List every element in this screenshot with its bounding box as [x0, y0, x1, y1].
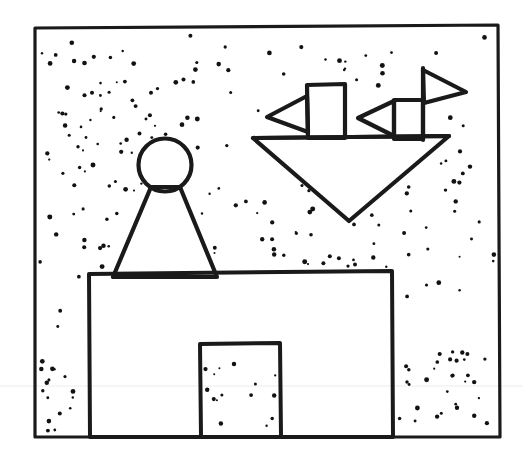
stipple-dot [337, 256, 341, 260]
stipple-dot [453, 210, 456, 213]
stipple-dot [321, 261, 325, 265]
stipple-dot [434, 51, 438, 55]
stipple-dot [272, 393, 276, 397]
stipple-dot [472, 380, 476, 384]
stipple-dot [433, 368, 435, 370]
stipple-dot [100, 110, 102, 112]
stipple-dot [226, 68, 230, 72]
scene-drawing [0, 0, 523, 466]
stipple-dot [414, 420, 417, 423]
stipple-dot [451, 179, 456, 184]
canvas-background [0, 0, 523, 466]
stipple-dot [61, 172, 64, 175]
stipple-dot [455, 406, 459, 410]
stipple-dot [398, 417, 401, 420]
stipple-dot [380, 63, 385, 68]
stipple-dot [444, 188, 447, 191]
stipple-dot [454, 199, 458, 203]
stipple-dot [131, 152, 133, 154]
stipple-dot [69, 407, 72, 410]
stipple-dot [478, 397, 480, 399]
stipple-dot [63, 123, 68, 128]
stipple-dot [131, 61, 136, 66]
stipple-dot [483, 357, 486, 360]
stipple-dot [213, 246, 217, 250]
stipple-dot [63, 375, 66, 378]
stipple-dot [58, 411, 62, 415]
stipple-dot [478, 220, 481, 223]
stipple-dot [370, 213, 374, 217]
stipple-dot [302, 259, 307, 264]
stipple-dot [82, 207, 85, 210]
stipple-dot [195, 117, 200, 122]
stipple-dot [225, 144, 228, 147]
stipple-dot [208, 192, 210, 194]
stipple-dot [47, 419, 52, 424]
stipple-dot [472, 414, 476, 418]
stipple-dot [385, 266, 387, 268]
stipple-dot [216, 399, 218, 401]
stipple-dot [68, 134, 71, 137]
stipple-dot [107, 245, 110, 248]
stipple-dot [82, 245, 86, 249]
stipple-dot [203, 367, 207, 371]
stipple-dot [72, 183, 76, 187]
stipple-dot [78, 166, 81, 169]
stipple-dot [459, 256, 461, 258]
stipple-dot [244, 200, 248, 204]
stipple-dot [45, 151, 49, 155]
stipple-dot [89, 119, 91, 121]
stipple-dot [457, 180, 461, 184]
stipple-dot [407, 185, 411, 189]
stipple-dot [470, 238, 473, 241]
stipple-dot [181, 77, 185, 81]
stipple-dot [90, 91, 94, 95]
stipple-dot [404, 364, 408, 368]
stipple-dot [425, 283, 428, 286]
stipple-dot [58, 309, 62, 313]
stipple-dot [64, 112, 67, 115]
stipple-dot [234, 203, 238, 207]
stipple-dot [270, 220, 274, 224]
stipple-dot [40, 359, 45, 364]
stipple-dot [53, 429, 56, 432]
stipple-dot [54, 232, 58, 236]
stipple-dot [121, 50, 124, 53]
stipple-dot [123, 187, 128, 192]
stipple-dot [150, 136, 153, 139]
stipple-dot [100, 264, 105, 269]
stipple-dot [229, 91, 232, 94]
stipple-dot [270, 417, 274, 421]
stipple-dot [307, 263, 309, 265]
stipple-dot [84, 170, 86, 172]
stipple-dot [85, 136, 88, 139]
stipple-dot [408, 383, 411, 386]
stipple-dot [145, 118, 148, 121]
stipple-dot [99, 94, 102, 97]
stipple-dot [346, 264, 349, 267]
stipple-dot [464, 380, 466, 382]
stipple-dot [405, 295, 409, 299]
stipple-dot [482, 35, 487, 40]
stipple-dot [72, 213, 75, 216]
stipple-dot [100, 107, 103, 110]
stipple-dot [462, 124, 465, 127]
stipple-dot [300, 184, 303, 187]
stipple-dot [205, 388, 209, 392]
stipple-dot [353, 263, 357, 267]
stipple-dot [213, 252, 215, 254]
stipple-dot [112, 116, 115, 119]
stipple-dot [91, 162, 96, 167]
stipple-dot [98, 246, 102, 250]
stipple-dot [455, 359, 459, 363]
stipple-dot [80, 126, 83, 129]
stipple-dot [60, 111, 64, 115]
stipple-dot [355, 78, 358, 81]
stipple-dot [438, 352, 442, 356]
stipple-dot [48, 158, 50, 160]
stipple-dot [364, 54, 367, 57]
stipple-dot [458, 149, 462, 153]
stipple-dot [435, 414, 439, 418]
stipple-dot [407, 368, 411, 372]
stipple-dot [262, 200, 267, 205]
